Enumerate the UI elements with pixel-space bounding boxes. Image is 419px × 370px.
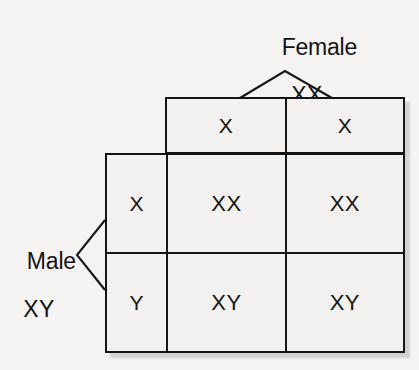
male-parent-genotype: XY [2, 298, 76, 322]
row-header-cell-1: X [107, 155, 166, 252]
offspring-cell-r1c2: XX [285, 155, 403, 252]
row-header-cell-2: Y [107, 254, 166, 351]
male-parent-name: Male [27, 248, 76, 274]
male-parent-label: Male XY [2, 226, 76, 369]
offspring-cell-r2c1: XY [166, 254, 284, 351]
female-bracket-icon [238, 66, 334, 100]
offspring-cell-r1c1: XX [166, 155, 284, 252]
column-header-row: X X [165, 97, 405, 154]
punnett-grid-body: X XX XX Y XY XY [105, 153, 405, 353]
female-parent-name: Female [282, 34, 358, 60]
table-row: Y XY XY [107, 252, 403, 351]
column-header-cell-2: X [285, 99, 403, 152]
table-row: X XX XX [107, 155, 403, 252]
punnett-square-diagram: Female XX Male XY X X X XX XX Y XY XY [0, 0, 419, 370]
male-bracket-icon [72, 218, 108, 292]
column-header-cell-1: X [167, 99, 285, 152]
offspring-cell-r2c2: XY [285, 254, 403, 351]
